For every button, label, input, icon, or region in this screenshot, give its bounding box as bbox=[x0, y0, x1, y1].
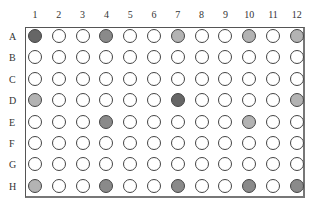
well-C12 bbox=[290, 72, 304, 86]
well-F2 bbox=[52, 136, 66, 150]
well-E1 bbox=[28, 115, 42, 129]
well-H8 bbox=[195, 179, 209, 193]
well-F1 bbox=[28, 136, 42, 150]
well-A7 bbox=[171, 29, 185, 43]
well-G8 bbox=[195, 157, 209, 171]
well-D5 bbox=[123, 93, 137, 107]
well-D8 bbox=[195, 93, 209, 107]
well-E5 bbox=[123, 115, 137, 129]
well-E11 bbox=[266, 115, 280, 129]
well-G10 bbox=[242, 157, 256, 171]
well-D1 bbox=[28, 93, 42, 107]
well-E12 bbox=[290, 115, 304, 129]
well-E9 bbox=[218, 115, 232, 129]
well-D6 bbox=[147, 93, 161, 107]
well-C7 bbox=[171, 72, 185, 86]
row-label-G: G bbox=[9, 159, 16, 170]
well-A11 bbox=[266, 29, 280, 43]
row-label-C: C bbox=[9, 73, 16, 84]
well-A10 bbox=[242, 29, 256, 43]
column-label-7: 7 bbox=[175, 9, 180, 20]
well-F7 bbox=[171, 136, 185, 150]
well-H12 bbox=[290, 179, 304, 193]
well-H9 bbox=[218, 179, 232, 193]
well-E6 bbox=[147, 115, 161, 129]
well-B7 bbox=[171, 50, 185, 64]
well-G12 bbox=[290, 157, 304, 171]
row-label-A: A bbox=[9, 31, 16, 42]
well-D2 bbox=[52, 93, 66, 107]
well-G1 bbox=[28, 157, 42, 171]
row-label-B: B bbox=[9, 52, 16, 63]
well-E10 bbox=[242, 115, 256, 129]
well-A2 bbox=[52, 29, 66, 43]
row-label-D: D bbox=[9, 95, 16, 106]
well-D10 bbox=[242, 93, 256, 107]
well-D7 bbox=[171, 93, 185, 107]
well-B11 bbox=[266, 50, 280, 64]
well-B3 bbox=[76, 50, 90, 64]
well-F8 bbox=[195, 136, 209, 150]
well-G7 bbox=[171, 157, 185, 171]
well-B6 bbox=[147, 50, 161, 64]
well-C9 bbox=[218, 72, 232, 86]
column-label-11: 11 bbox=[268, 9, 278, 20]
well-B5 bbox=[123, 50, 137, 64]
row-label-F: F bbox=[9, 138, 15, 149]
well-H5 bbox=[123, 179, 137, 193]
well-H1 bbox=[28, 179, 42, 193]
well-A9 bbox=[218, 29, 232, 43]
well-F12 bbox=[290, 136, 304, 150]
well-B8 bbox=[195, 50, 209, 64]
well-A1 bbox=[28, 29, 42, 43]
well-D3 bbox=[76, 93, 90, 107]
well-C1 bbox=[28, 72, 42, 86]
well-A5 bbox=[123, 29, 137, 43]
plate-frame bbox=[25, 27, 305, 198]
well-E8 bbox=[195, 115, 209, 129]
well-F11 bbox=[266, 136, 280, 150]
column-label-1: 1 bbox=[33, 9, 38, 20]
well-C11 bbox=[266, 72, 280, 86]
well-B1 bbox=[28, 50, 42, 64]
well-C2 bbox=[52, 72, 66, 86]
well-B10 bbox=[242, 50, 256, 64]
well-D4 bbox=[99, 93, 113, 107]
well-E7 bbox=[171, 115, 185, 129]
column-label-8: 8 bbox=[199, 9, 204, 20]
well-C5 bbox=[123, 72, 137, 86]
well-F4 bbox=[99, 136, 113, 150]
well-H4 bbox=[99, 179, 113, 193]
well-B9 bbox=[218, 50, 232, 64]
well-D9 bbox=[218, 93, 232, 107]
well-H6 bbox=[147, 179, 161, 193]
column-label-10: 10 bbox=[244, 9, 254, 20]
well-F3 bbox=[76, 136, 90, 150]
well-C6 bbox=[147, 72, 161, 86]
well-H2 bbox=[52, 179, 66, 193]
well-C4 bbox=[99, 72, 113, 86]
well-A6 bbox=[147, 29, 161, 43]
row-label-H: H bbox=[9, 180, 16, 191]
column-label-6: 6 bbox=[152, 9, 157, 20]
well-A4 bbox=[99, 29, 113, 43]
well-E3 bbox=[76, 115, 90, 129]
column-label-12: 12 bbox=[292, 9, 302, 20]
column-label-2: 2 bbox=[56, 9, 61, 20]
well-E2 bbox=[52, 115, 66, 129]
well-A3 bbox=[76, 29, 90, 43]
well-A12 bbox=[290, 29, 304, 43]
well-B2 bbox=[52, 50, 66, 64]
well-B12 bbox=[290, 50, 304, 64]
well-F10 bbox=[242, 136, 256, 150]
column-label-9: 9 bbox=[223, 9, 228, 20]
well-H11 bbox=[266, 179, 280, 193]
well-C8 bbox=[195, 72, 209, 86]
column-label-5: 5 bbox=[128, 9, 133, 20]
well-A8 bbox=[195, 29, 209, 43]
well-E4 bbox=[99, 115, 113, 129]
well-C10 bbox=[242, 72, 256, 86]
column-label-3: 3 bbox=[80, 9, 85, 20]
well-G4 bbox=[99, 157, 113, 171]
well-C3 bbox=[76, 72, 90, 86]
